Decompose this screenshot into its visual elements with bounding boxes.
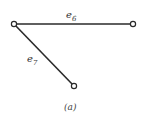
node-bottom bbox=[71, 83, 76, 88]
figure-caption: (a) bbox=[64, 102, 77, 112]
graph-diagram: e6 e7 (a) bbox=[0, 0, 146, 115]
edge-label-e6: e6 bbox=[66, 9, 77, 23]
edge-label-e7: e7 bbox=[27, 53, 38, 67]
node-left bbox=[11, 21, 16, 26]
edge-e7 bbox=[14, 24, 74, 86]
node-right bbox=[130, 21, 135, 26]
